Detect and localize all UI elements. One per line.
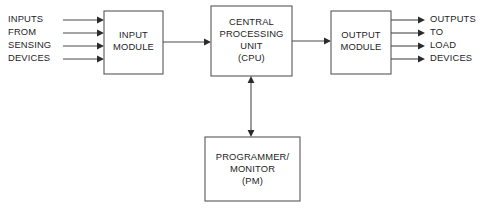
- programmer-monitor-label-line-1: PROGRAMMER/: [216, 151, 290, 162]
- cpu-label-line-3: UNIT: [240, 40, 263, 51]
- plc-block-diagram: INPUTS FROM SENSING DEVICES INPUT MODULE…: [0, 0, 495, 210]
- input-arrow-2: [63, 30, 104, 37]
- programmer-monitor-label-line-2: MONITOR: [230, 163, 275, 174]
- block-cpu: CENTRAL PROCESSING UNIT (CPU): [211, 6, 292, 76]
- input-arrow-4: [63, 56, 104, 63]
- output-module-label-line-1: OUTPUT: [341, 29, 381, 40]
- connector-cpu-to-pm: [248, 76, 255, 137]
- output-label-4: DEVICES: [430, 52, 472, 63]
- cpu-to-pm-arrow-head-down: [248, 130, 255, 137]
- input-arrow-1: [63, 17, 104, 24]
- connector-input-to-cpu: [163, 39, 211, 46]
- output-module-label-line-2: MODULE: [340, 41, 381, 52]
- output-arrow-3: [391, 43, 425, 50]
- input-label-3: SENSING: [8, 39, 51, 50]
- output-arrow-head-4: [418, 56, 425, 63]
- output-arrow-2: [391, 30, 425, 37]
- input-label-1: INPUTS: [8, 13, 43, 24]
- input-module-label-line-2: MODULE: [113, 41, 154, 52]
- connector-cpu-to-output: [292, 38, 331, 45]
- cpu-to-pm-arrow-head-up: [248, 76, 255, 83]
- output-arrow-head-1: [418, 17, 425, 24]
- cpu-label-line-1: CENTRAL: [229, 16, 274, 27]
- cpu-to-output-arrow-head: [324, 38, 331, 45]
- output-label-1: OUTPUTS: [430, 13, 476, 24]
- cpu-label-line-4: (CPU): [238, 52, 265, 63]
- output-arrow-4: [391, 56, 425, 63]
- output-signal-group: OUTPUTS TO LOAD DEVICES: [391, 13, 476, 63]
- input-arrow-head-1: [97, 17, 104, 24]
- programmer-monitor-label-line-3: (PM): [242, 175, 263, 186]
- output-label-2: TO: [430, 26, 443, 37]
- input-to-cpu-arrow-head: [204, 39, 211, 46]
- cpu-label-line-2: PROCESSING: [219, 28, 283, 39]
- block-programmer-monitor: PROGRAMMER/ MONITOR (PM): [205, 137, 300, 201]
- output-label-3: LOAD: [430, 39, 456, 50]
- output-arrow-head-2: [418, 30, 425, 37]
- input-arrow-head-2: [97, 30, 104, 37]
- block-input-module: INPUT MODULE: [104, 11, 163, 74]
- block-output-module: OUTPUT MODULE: [331, 11, 391, 74]
- input-signal-group: INPUTS FROM SENSING DEVICES: [8, 13, 104, 63]
- input-label-2: FROM: [8, 26, 36, 37]
- input-arrow-head-4: [97, 56, 104, 63]
- input-arrow-3: [63, 43, 104, 50]
- input-module-label-line-1: INPUT: [119, 29, 148, 40]
- input-arrow-head-3: [97, 43, 104, 50]
- output-arrow-head-3: [418, 43, 425, 50]
- output-arrow-1: [391, 17, 425, 24]
- input-label-4: DEVICES: [8, 52, 50, 63]
- diagram-canvas: INPUTS FROM SENSING DEVICES INPUT MODULE…: [0, 0, 495, 210]
